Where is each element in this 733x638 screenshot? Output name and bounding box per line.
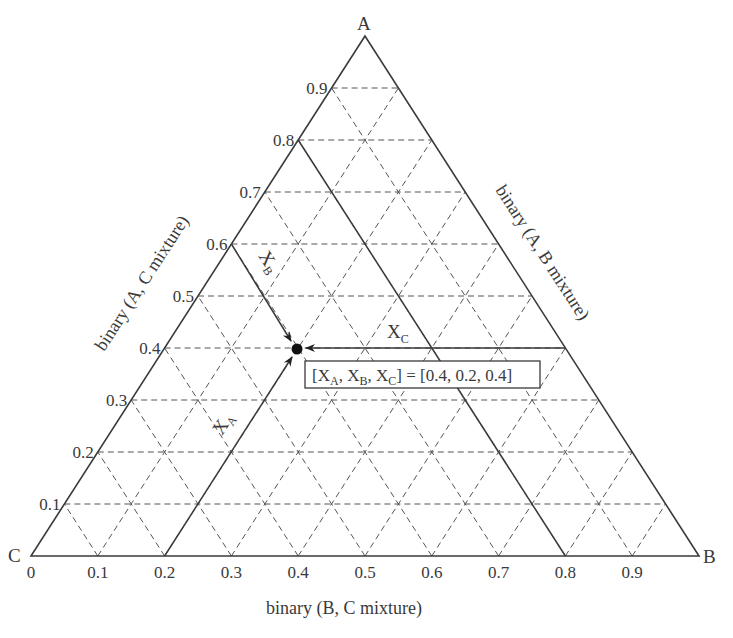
dashed-grid [64,88,665,556]
bottom-tick-label: 0.5 [354,563,375,582]
grid-line [98,88,399,556]
grid-line [332,88,633,556]
bottom-edge-title: binary (B, C mixture) [266,598,422,619]
grid-line [632,504,665,556]
left-axis-ticks: 0.10.20.30.40.50.60.70.80.9 [39,79,327,514]
left-tick-label: 0.4 [139,339,161,358]
left-tick-label: 0.5 [173,287,194,306]
xc-label: XC [387,321,409,346]
bottom-axis-ticks: 00.10.20.30.40.50.60.70.80.9 [27,563,643,582]
bottom-tick-label: 0.4 [288,563,310,582]
grid-line [499,400,599,556]
bottom-tick-label: 0.6 [421,563,442,582]
bottom-tick-label: 0.3 [221,563,242,582]
left-tick-label: 0.8 [273,131,294,150]
composition-point [292,344,303,355]
left-edge-title: binary (A, C mixture) [91,212,194,355]
xa-arrow [165,357,292,556]
left-tick-label: 0.9 [306,79,327,98]
grid-line [64,504,97,556]
left-tick-label: 0.6 [206,235,227,254]
bottom-tick-label: 0 [27,563,36,582]
bottom-tick-label: 0.8 [555,563,576,582]
corner-c-label: C [8,545,21,566]
bottom-tick-label: 0.2 [154,563,175,582]
bottom-tick-label: 0.7 [488,563,510,582]
ternary-diagram: [XA, XB, XC] = [0.4, 0.2, 0.4] XA XB XC … [0,0,733,638]
left-tick-label: 0.1 [39,495,60,514]
left-tick-label: 0.7 [240,183,262,202]
left-tick-label: 0.3 [106,391,127,410]
left-tick-label: 0.2 [73,443,94,462]
bottom-tick-label: 0.1 [87,563,108,582]
corner-b-label: B [703,546,716,567]
right-edge-title: binary (A, B mixture) [491,181,594,324]
bottom-tick-label: 0.9 [622,563,643,582]
annotation-text: [XA, XB, XC] = [0.4, 0.2, 0.4] [312,366,512,388]
xa-label: XA [208,408,241,440]
corner-a-label: A [357,13,371,34]
